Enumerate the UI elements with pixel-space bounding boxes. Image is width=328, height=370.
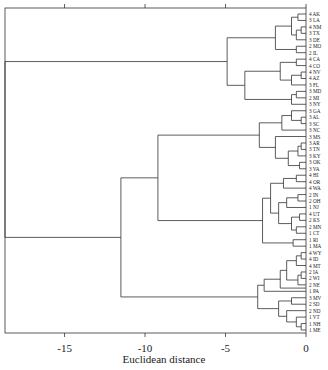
leaf-label: 2 SD bbox=[309, 301, 320, 307]
leaf-label: 3 TX bbox=[309, 30, 320, 36]
leaf-label: 3 MV bbox=[309, 295, 322, 301]
leaf-label: 4 MT bbox=[309, 263, 322, 269]
leaf-label: 3 MS bbox=[309, 134, 321, 140]
leaf-label: 2 OH bbox=[309, 198, 321, 204]
leaf-label: 3 MD bbox=[309, 88, 322, 94]
leaf-label: 2 IL bbox=[309, 50, 318, 56]
leaf-label: 2 KS bbox=[309, 217, 320, 223]
leaf-label: 1 PA bbox=[309, 288, 319, 294]
leaf-label: 3 KY bbox=[309, 153, 321, 159]
leaf-label: 3 NC bbox=[309, 127, 321, 133]
leaf-label: 2 ND bbox=[309, 308, 321, 314]
dendrogram-chart: -15-10-504 AK3 LA4 NM3 TX3 DE2 MO2 IL4 C… bbox=[0, 0, 328, 370]
leaf-label: 2 MI bbox=[309, 95, 320, 101]
leaf-label: 1 RI bbox=[309, 237, 318, 243]
plot-frame bbox=[5, 8, 306, 333]
leaf-label: 2 MN bbox=[309, 224, 322, 230]
leaf-label: 4 NV bbox=[309, 69, 321, 75]
leaf-label: 3 DE bbox=[309, 37, 320, 43]
leaf-label: 1 NH bbox=[309, 321, 321, 327]
leaf-label: 2 IA bbox=[309, 269, 319, 275]
leaf-label: 1 ME bbox=[309, 327, 321, 333]
leaf-label: 3 NY bbox=[309, 101, 321, 107]
leaf-label: 3 FL bbox=[309, 82, 319, 88]
leaf-label: 4 OR bbox=[309, 179, 321, 185]
leaf-label: 2 WI bbox=[309, 275, 320, 281]
leaf-label: 3 AL bbox=[309, 114, 320, 120]
leaf-label: 4 AK bbox=[309, 11, 320, 17]
leaf-label: 3 TN bbox=[309, 146, 320, 152]
leaf-label: 4 HI bbox=[309, 172, 319, 178]
leaf-label: 1 VT bbox=[309, 314, 321, 320]
leaf-label: 4 UT bbox=[309, 211, 321, 217]
leaf-label: 2 MO bbox=[309, 43, 322, 49]
leaf-label: 3 VA bbox=[309, 166, 320, 172]
leaf-label: 3 LA bbox=[309, 17, 320, 23]
leaf-label: 1 CT bbox=[309, 230, 320, 236]
leaf-label: 3 GA bbox=[309, 108, 321, 114]
leaf-label: 2 NE bbox=[309, 282, 320, 288]
leaf-label: 4 WY bbox=[309, 250, 322, 256]
leaf-label: 4 WA bbox=[309, 185, 321, 191]
leaf-label: 1 NJ bbox=[309, 204, 319, 210]
leaf-label: 2 IN bbox=[309, 192, 319, 198]
leaf-label: 4 AZ bbox=[309, 75, 320, 81]
leaf-label: 4 CO bbox=[309, 63, 320, 69]
leaf-label: 1 MA bbox=[309, 243, 322, 249]
leaf-label: 3 SC bbox=[309, 121, 320, 127]
leaf-label: 4 CA bbox=[309, 56, 320, 62]
leaf-label: 4 ID bbox=[309, 256, 319, 262]
leaf-label: 4 NM bbox=[309, 24, 322, 30]
x-axis-label: Euclidean distance bbox=[0, 353, 328, 365]
leaf-label: 3 AR bbox=[309, 140, 320, 146]
leaf-label: 3 OK bbox=[309, 159, 321, 165]
